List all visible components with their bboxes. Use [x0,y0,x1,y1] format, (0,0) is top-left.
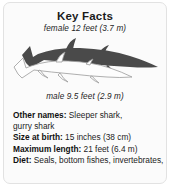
fact-label: Maximum length: [13,144,81,154]
fact-size-at-birth: Size at birth: 15 inches (38 cm) [13,132,166,143]
fact-value: 15 inches (38 cm) [65,132,131,142]
page-title: Key Facts [4,10,166,22]
key-facts-card: Key Facts female 12 feet (3.7 m) [3,2,167,178]
shark-size-illustration: female 12 feet (3.7 m) [4,24,166,106]
shark-silhouettes [4,33,167,95]
fact-value: Sleeper shark, [69,110,123,120]
fact-other-names: Other names: Sleeper shark, [13,110,166,121]
female-size-label: female 12 feet (3.7 m) [4,24,166,33]
fact-label: Diet: [13,155,31,165]
fact-label: Other names: [13,110,66,120]
fact-diet: Diet: Seals, bottom fishes, invertebrate… [13,155,166,166]
fact-value: Seals, bottom fishes, invertebrates, [34,155,164,165]
fact-maximum-length: Maximum length: 21 feet (6.4 m) [13,144,166,155]
fact-value: 21 feet (6.4 m) [84,144,138,154]
male-size-label: male 9.5 feet (2.9 m) [4,92,166,101]
facts-list: Other names: Sleeper shark, gurry shark … [4,106,166,166]
fact-other-names-continuation: gurry shark [13,121,166,132]
fact-label: Size at birth: [13,132,63,142]
